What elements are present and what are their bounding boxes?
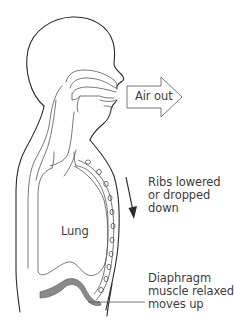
lung — [38, 152, 108, 276]
trachea — [28, 86, 76, 268]
air-out-label: Air out — [135, 90, 173, 103]
diaphragm-label-line-3: moves up — [148, 298, 234, 311]
lung-label: Lung — [61, 225, 89, 238]
ribs-label-line-3: down — [148, 202, 221, 215]
ribs-label: Ribs lowered or dropped down — [148, 176, 221, 215]
diaphragm-label: Diaphragm muscle relaxed moves up — [148, 272, 234, 311]
diaphragm — [40, 279, 101, 306]
breathing-diagram: Air out Lung Ribs lowered or dropped dow… — [0, 0, 234, 328]
ribs-down-arrow — [126, 177, 137, 219]
ribs — [85, 160, 115, 293]
nasal-passage — [66, 70, 117, 112]
body-outline — [16, 17, 124, 312]
